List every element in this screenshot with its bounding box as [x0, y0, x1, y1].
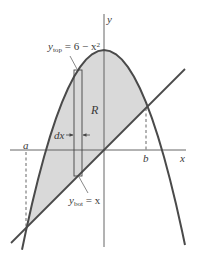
- bottom-curve-label: ybot = x: [69, 195, 100, 208]
- bot-label-leader: [79, 177, 88, 193]
- y-axis-label: y: [107, 14, 112, 25]
- top-curve-label: ytop = 6 − x2: [48, 41, 100, 54]
- diagram-canvas: [0, 0, 197, 256]
- dx-label: dx: [54, 130, 64, 141]
- top-label-leader: [70, 56, 77, 69]
- x-axis-label: x: [180, 153, 185, 164]
- bound-a-label: a: [23, 140, 29, 151]
- bound-b-label: b: [143, 153, 149, 164]
- region-label: R: [91, 104, 98, 116]
